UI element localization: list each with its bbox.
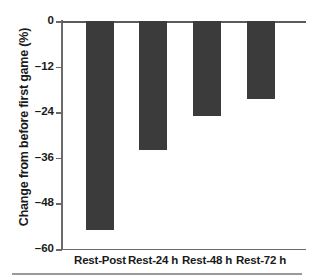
bar-rest-72h (247, 21, 275, 99)
y-tick-label-1: –12 (10, 61, 54, 73)
y-tick-mark-5 (56, 249, 62, 251)
bar-rest-post (86, 21, 114, 230)
bar-rest-48h (193, 21, 221, 116)
x-tick-label-rest-72h: Rest-72 h (231, 254, 291, 266)
y-tick-label-5: –60 (10, 243, 54, 255)
footer-rule (12, 273, 302, 275)
x-tick-label-rest-post: Rest-Post (70, 254, 130, 266)
x-tick-label-rest-48h: Rest-48 h (177, 254, 237, 266)
y-tick-label-2: –24 (10, 106, 54, 118)
y-tick-label-4: –48 (10, 197, 54, 209)
y-tick-label-0: 0 (10, 15, 54, 27)
y-tick-label-3: –36 (10, 152, 54, 164)
plot-area (62, 21, 306, 249)
x-tick-label-rest-24h: Rest-24 h (123, 254, 183, 266)
bar-rest-24h (139, 21, 167, 150)
y-axis-title: Change from before first game (%) (17, 7, 31, 247)
bar-chart-figure: Change from before first game (%) 0 –12 … (0, 0, 314, 280)
